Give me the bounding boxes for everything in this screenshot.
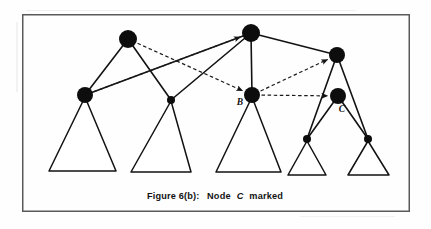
graph-node-n8 [303,135,311,143]
graph-node-n1 [119,30,137,48]
graph-node-n6 [329,47,345,63]
node-label-B: B [236,97,243,107]
tree-edges [85,33,368,139]
pointer-B-to-C [261,95,327,96]
tree-edge [251,33,337,55]
subtree-triangle [216,97,281,172]
figure-canvas: BC Figure 6(b): Node C marked [0,0,431,229]
subtree-triangle [348,141,389,175]
graph-nodes [77,24,372,143]
graph-node-n4 [242,24,260,42]
graph-node-C [330,88,346,104]
tree-edge [171,33,251,100]
caption-node-letter: C [237,191,244,201]
graph-node-n3 [167,96,175,104]
caption-prefix: Figure 6(b): [147,191,199,201]
graph-node-n9 [364,135,372,143]
figure-panel: BC Figure 6(b): Node C marked [0,0,431,229]
subtree-triangle [49,97,116,171]
caption-suffix: marked [249,191,283,201]
subtree-triangle [288,141,326,175]
subtree-triangle [131,101,191,172]
caption-middle: Node [207,191,231,201]
figure-caption: Figure 6(b): Node C marked [147,191,283,201]
graph-node-B [244,87,260,103]
pointer-B-to-right-top [261,59,328,90]
graph-node-n2 [77,87,93,103]
node-label-C: C [339,104,346,114]
tree-edge [251,33,252,95]
caption-line: Figure 6(b): Node C marked [147,191,283,201]
